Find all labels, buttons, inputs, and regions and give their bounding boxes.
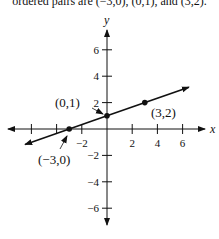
x-tick-label: −2: [76, 137, 88, 149]
axes: xy: [8, 13, 216, 225]
y-tick-label: 6: [94, 44, 100, 56]
point-label: (3,2): [151, 105, 176, 120]
point-label: (−3,0): [38, 152, 70, 167]
y-tick-label: −6: [87, 202, 99, 214]
x-tick-label: 2: [129, 137, 135, 149]
coordinate-plane: xy −2246−6−4−2246 (0,1)(3,2)(−3,0): [0, 0, 219, 239]
x-tick-label: 6: [180, 137, 186, 149]
data-point: [104, 113, 110, 119]
data-point: [142, 100, 148, 106]
data-point: [66, 126, 72, 132]
point-label: (0,1): [55, 95, 80, 110]
y-tick-label: 4: [94, 70, 100, 82]
x-axis-label: x: [209, 122, 216, 136]
y-tick-label: 2: [94, 97, 100, 109]
y-tick-label: −2: [87, 149, 99, 161]
y-axis-label: y: [103, 13, 110, 27]
x-tick-label: 4: [155, 137, 161, 149]
y-tick-label: −4: [87, 176, 99, 188]
